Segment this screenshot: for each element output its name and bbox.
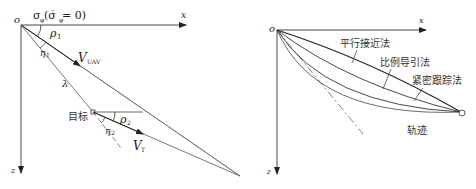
svg-text:2: 2	[127, 119, 131, 126]
left-diagram: o x z σ φ (σ̇ φ = 0) ρ 1 η 1 V UAV λ 目标	[10, 9, 240, 176]
target-velocity-arrow	[93, 112, 143, 134]
eta2-arc	[101, 117, 105, 123]
label-parallel-approach: 平行接近法	[340, 37, 390, 49]
svg-text:1: 1	[57, 33, 61, 41]
rho2-arc	[113, 112, 115, 122]
rho2-label: ρ	[119, 113, 127, 126]
target-label: 目标	[68, 111, 88, 122]
svg-text:T: T	[141, 146, 145, 153]
right-z-label: z	[266, 168, 271, 176]
label-trajectory: 轨迹	[407, 124, 427, 136]
svg-text:UAV: UAV	[87, 58, 101, 65]
svg-text:= 0): = 0)	[62, 9, 86, 22]
left-x-label: x	[181, 10, 186, 20]
lambda-label: λ	[61, 78, 68, 89]
right-origin-label: o	[269, 23, 275, 34]
svg-text:(σ̇: (σ̇	[44, 9, 56, 22]
left-origin-label: o	[14, 14, 20, 25]
right-x-label: x	[419, 16, 424, 25]
leader-pursuit	[414, 88, 423, 101]
guidance-diagrams: o x z σ φ (σ̇ φ = 0) ρ 1 η 1 V UAV λ 目标	[0, 0, 476, 189]
svg-text:1: 1	[46, 51, 50, 58]
intercept-point	[459, 110, 465, 116]
sigma-annotation: σ φ (σ̇ φ = 0)	[33, 9, 86, 24]
leader-parallel	[352, 50, 357, 63]
label-pure-pursuit: 紧密跟踪法	[412, 74, 462, 86]
label-proportional-navigation: 比例导引法	[380, 56, 430, 68]
rho1-label: ρ	[49, 27, 57, 40]
svg-text:2: 2	[111, 129, 115, 136]
left-z-label: z	[10, 166, 16, 175]
rho1-arc	[38, 25, 41, 36]
right-diagram: o x z 平行接近法 比例导引法 紧密跟踪法 轨迹	[266, 16, 465, 176]
